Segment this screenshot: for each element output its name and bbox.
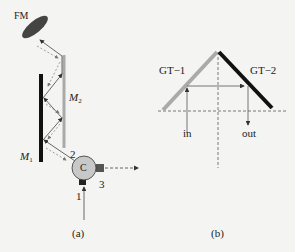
grating-beam [187,86,248,133]
fm-label: FM [14,11,28,21]
circulator-label: C [80,163,87,173]
m1-label-sub: 1 [29,156,33,164]
m1-label: M1 [20,151,33,164]
gt1-label: GT−1 [159,65,185,76]
caption-b: (b) [211,228,224,239]
diagram-canvas [0,0,295,252]
m2-label-sub: 2 [78,97,82,105]
m2-label: M2 [69,92,82,105]
in-label: in [183,128,192,139]
m1-label-main: M [20,150,29,162]
gt2-label: GT−2 [250,65,276,76]
port2-label: 2 [70,149,76,160]
m2-label-main: M [69,91,78,103]
port1-label: 1 [76,191,82,202]
out-label: out [242,128,256,139]
caption-a: (a) [72,228,84,239]
port3-label: 3 [99,179,105,190]
gt2-grating [219,52,272,108]
gt1-grating [163,52,217,110]
